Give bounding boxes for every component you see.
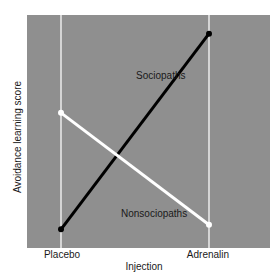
- data-point-sociopaths-placebo: [58, 226, 64, 232]
- data-point-nonsociopaths-adrenalin: [206, 222, 212, 228]
- x-axis-label: Injection: [125, 261, 162, 272]
- x-tick-placebo: Placebo: [44, 249, 81, 260]
- series-label-nonsociopaths: Nonsociopaths: [121, 208, 187, 219]
- y-axis-label: Avoidance learning score: [12, 81, 23, 194]
- data-point-nonsociopaths-placebo: [58, 110, 64, 116]
- line-chart: Sociopaths Nonsociopaths Placebo Adrenal…: [0, 0, 280, 278]
- x-tick-adrenalin: Adrenalin: [187, 249, 229, 260]
- data-point-sociopaths-adrenalin: [206, 31, 212, 37]
- series-label-sociopaths: Sociopaths: [136, 70, 185, 81]
